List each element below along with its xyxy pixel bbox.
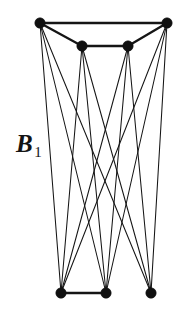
- figure-root: B1: [0, 0, 184, 325]
- figure-label: B1: [16, 131, 41, 156]
- graph-edge-t4-b3: [151, 23, 167, 293]
- graph-edge-t3-b3: [128, 46, 151, 293]
- graph-vertex-top-inner-left: [77, 41, 87, 51]
- graph-edge-t4-b2: [106, 23, 167, 293]
- graph-canvas: [0, 0, 184, 325]
- graph-vertex-bottom-right: [146, 288, 156, 298]
- figure-label-subscript: 1: [34, 144, 42, 160]
- graph-edge-t4-b1: [61, 23, 167, 293]
- figure-label-base: B: [16, 130, 33, 157]
- graph-vertex-top-outer-left: [35, 18, 45, 28]
- graph-vertex-top-inner-right: [123, 41, 133, 51]
- graph-edge-t1-t2: [40, 23, 82, 46]
- edge-layer: [40, 23, 167, 293]
- graph-edge-t1-b3: [40, 23, 151, 293]
- graph-vertex-bottom-left: [56, 288, 66, 298]
- graph-vertex-bottom-middle: [101, 288, 111, 298]
- graph-edge-t1-b1: [40, 23, 61, 293]
- graph-vertex-top-outer-right: [162, 18, 172, 28]
- graph-edge-t3-t4: [128, 23, 167, 46]
